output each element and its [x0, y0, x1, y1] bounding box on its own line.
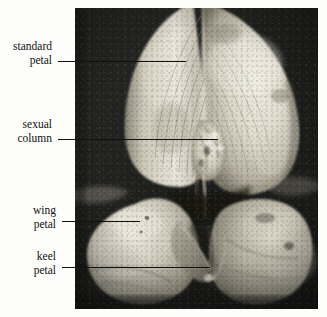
label-wing-petal-line1: wing — [0, 204, 56, 218]
label-wing-petal-line2: petal — [0, 218, 56, 232]
label-standard-petal-line1: standard — [0, 40, 52, 54]
label-sexual-column: sexual column — [0, 118, 52, 145]
label-sexual-column-line1: sexual — [0, 118, 52, 132]
label-keel-petal-line2: petal — [0, 264, 56, 278]
label-standard-petal-line2: petal — [0, 54, 52, 68]
label-keel-petal: keel petal — [0, 250, 56, 277]
leader-wing-petal — [62, 221, 140, 222]
label-wing-petal: wing petal — [0, 204, 56, 231]
leader-keel-petal — [62, 267, 210, 268]
flower-photo-svg — [75, 8, 318, 309]
flower-photograph — [75, 8, 318, 309]
label-keel-petal-line1: keel — [0, 250, 56, 264]
figure-root: standard petal sexual column wing petal … — [0, 0, 327, 317]
leader-standard-petal — [58, 61, 186, 62]
label-standard-petal: standard petal — [0, 40, 52, 67]
leader-sexual-column — [58, 139, 218, 140]
label-sexual-column-line2: column — [0, 132, 52, 146]
